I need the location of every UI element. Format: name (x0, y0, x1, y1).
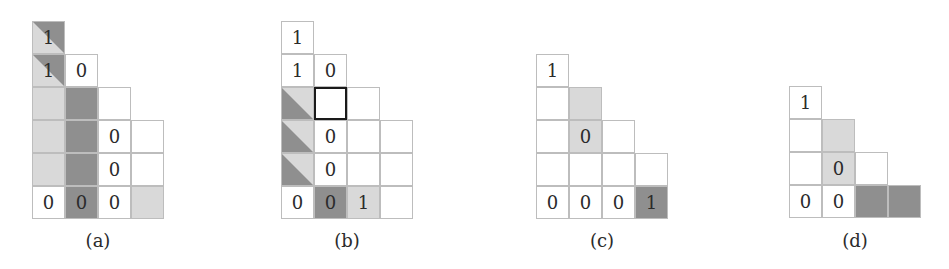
cell-a-r4-c0 (32, 153, 65, 186)
caption-c: (c) (590, 230, 614, 251)
cell-a-r5-c1: 0 (65, 186, 98, 219)
cell-d-r2-c1: 0 (822, 152, 855, 185)
cell-b-r0-c0: 1 (281, 21, 314, 54)
cell-d-r0-c0: 1 (789, 86, 822, 119)
cell-d-r3-c3 (888, 185, 921, 218)
cell-d-r3-c0: 0 (789, 185, 822, 218)
cell-a-r0-c0: 1 (32, 21, 65, 54)
cell-c-r2-c0 (536, 120, 569, 153)
cell-d-r1-c0 (789, 119, 822, 152)
cell-a-r5-c2: 0 (98, 186, 131, 219)
cell-c-r3-c1 (569, 153, 602, 186)
cell-b-r2-c0 (281, 87, 314, 120)
cell-b-r2-c1-selected (314, 87, 347, 120)
cell-b-r5-c0: 0 (281, 186, 314, 219)
cell-c-r0-c0: 1 (536, 54, 569, 87)
caption-b: (b) (334, 230, 360, 251)
cell-c-r4-c1: 0 (569, 186, 602, 219)
cell-a-r3-c3 (131, 120, 164, 153)
cell-c-r3-c3 (635, 153, 668, 186)
cell-a-r1-c1: 0 (65, 54, 98, 87)
cell-c-r1-c0 (536, 87, 569, 120)
cell-a-r5-c3 (131, 186, 164, 219)
cell-b-r1-c1: 0 (314, 54, 347, 87)
cell-a-r2-c2 (98, 87, 131, 120)
cell-a-r3-c0 (32, 120, 65, 153)
cell-d-r2-c0 (789, 152, 822, 185)
cell-b-r3-c2 (347, 120, 380, 153)
cell-d-r1-c1 (822, 119, 855, 152)
cell-b-r4-c1: 0 (314, 153, 347, 186)
cell-a-r4-c1 (65, 153, 98, 186)
cell-d-r3-c2 (855, 185, 888, 218)
cell-c-r1-c1 (569, 87, 602, 120)
cell-b-r3-c0 (281, 120, 314, 153)
cell-d-r2-c2 (855, 152, 888, 185)
cell-a-r2-c1 (65, 87, 98, 120)
cell-b-r2-c2 (347, 87, 380, 120)
cell-c-r2-c1: 0 (569, 120, 602, 153)
cell-b-r3-c3 (380, 120, 413, 153)
cell-a-r4-c3 (131, 153, 164, 186)
cell-c-r3-c0 (536, 153, 569, 186)
cell-c-r4-c0: 0 (536, 186, 569, 219)
cell-b-r5-c3 (380, 186, 413, 219)
cell-c-r3-c2 (602, 153, 635, 186)
cell-b-r4-c3 (380, 153, 413, 186)
cell-a-r5-c0: 0 (32, 186, 65, 219)
caption-d: (d) (842, 230, 868, 251)
cell-b-r4-c2 (347, 153, 380, 186)
cell-b-r1-c0: 1 (281, 54, 314, 87)
cell-a-r3-c2: 0 (98, 120, 131, 153)
cell-a-r1-c0: 1 (32, 54, 65, 87)
cell-c-r4-c2: 0 (602, 186, 635, 219)
cell-b-r5-c2: 1 (347, 186, 380, 219)
cell-a-r2-c0 (32, 87, 65, 120)
cell-d-r3-c1: 0 (822, 185, 855, 218)
cell-c-r4-c3: 1 (635, 186, 668, 219)
cell-a-r3-c1 (65, 120, 98, 153)
caption-a: (a) (86, 230, 111, 251)
cell-a-r4-c2: 0 (98, 153, 131, 186)
cell-b-r5-c1: 0 (314, 186, 347, 219)
cell-c-r2-c2 (602, 120, 635, 153)
cell-b-r4-c0 (281, 153, 314, 186)
cell-b-r3-c1: 0 (314, 120, 347, 153)
